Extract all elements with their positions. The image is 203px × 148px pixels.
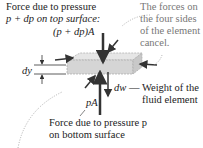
top-force-label: (p + dp)A bbox=[53, 26, 95, 38]
side-note-line4: cancel. bbox=[140, 37, 169, 49]
back-side-arrow bbox=[108, 40, 118, 52]
side-note-line3: of the element bbox=[140, 25, 200, 37]
weight-label-line1: — Weight of the bbox=[129, 82, 199, 94]
bottom-force-label: pA bbox=[86, 97, 98, 109]
fluid-element-slab bbox=[67, 53, 142, 74]
side-note-line2: the four sides bbox=[140, 13, 197, 25]
side-note-line1: The forces on bbox=[140, 1, 198, 13]
dw-label: dw bbox=[114, 82, 126, 94]
weight-label-line2: fluid element bbox=[142, 94, 198, 106]
top-label-line2: p + dp on top surface: bbox=[6, 13, 100, 25]
front-side-arrow bbox=[85, 76, 95, 88]
bottom-label-line2: on bottom surface bbox=[49, 129, 125, 141]
dy-label: dy bbox=[22, 65, 32, 77]
bottom-label-line1: Force due to pressure p bbox=[49, 117, 147, 129]
top-label-line1: Force due to pressure bbox=[6, 1, 96, 13]
